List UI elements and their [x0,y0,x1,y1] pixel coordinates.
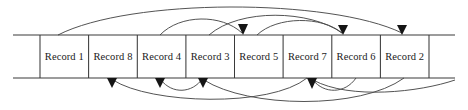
cell-label-0: Record 1 [45,51,84,62]
arrowhead-slot-6 [307,78,317,89]
diagram-canvas: Record 1 Record 8 Record 4 Record 3 Reco… [0,0,468,110]
record-permutation-diagram: Record 1 Record 8 Record 4 Record 3 Reco… [0,0,468,110]
cell-label-5: Record 7 [288,51,327,62]
arrowhead-slot-5 [238,24,248,35]
cell-label-6: Record 6 [337,51,376,62]
arc-r4-to-r5-slot [160,19,242,35]
arc-to-r3-slot [204,78,404,102]
cell-label-3: Record 3 [191,51,230,62]
arcs-below-group [113,78,455,102]
arrowhead-slot-8 [397,25,407,35]
arc-r1-to-r2-slot [58,7,402,35]
arc-to-r8-slot [113,78,307,99]
cell-label-7: Record 2 [385,51,424,62]
cell-label-4: Record 5 [239,51,278,62]
arrowheads-below-group [107,78,317,89]
arc-to-r4-slot [161,78,203,90]
cell-label-2: Record 4 [142,51,182,62]
arcs-above-group [58,7,402,35]
arrowhead-slot-7 [338,25,348,35]
arrowhead-slot-2 [107,78,117,88]
cell-label-1: Record 8 [94,51,133,62]
arc-r5-to-r6-slot [257,20,342,35]
arc-r3-to-r6-long [209,15,342,35]
